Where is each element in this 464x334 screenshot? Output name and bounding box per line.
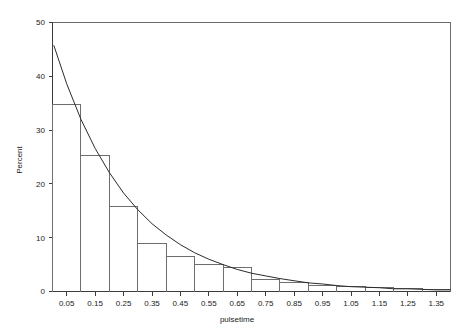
y-axis-title: Percent [15, 145, 24, 173]
x-tick-label: 1.15 [372, 299, 388, 308]
x-tick-label: 0.65 [230, 299, 246, 308]
x-tick-label: 1.35 [429, 299, 445, 308]
x-tick-label: 0.35 [144, 299, 160, 308]
y-tick-label: 0 [41, 287, 46, 296]
x-tick-label: 1.05 [343, 299, 359, 308]
x-tick-label: 0.15 [87, 299, 103, 308]
y-tick-label: 50 [36, 18, 45, 27]
y-tick-label: 40 [36, 72, 45, 81]
histogram-chart: 0 10 20 30 40 50 Percent [0, 0, 464, 334]
y-tick-label: 30 [36, 126, 45, 135]
x-tick-label: 0.05 [59, 299, 75, 308]
x-tick-label: 0.45 [173, 299, 189, 308]
x-tick-label: 0.25 [116, 299, 132, 308]
chart-figure: 0 10 20 30 40 50 Percent [0, 0, 464, 334]
x-tick-label: 0.95 [315, 299, 331, 308]
chart-background [0, 0, 464, 334]
x-axis-title: pulsetime [220, 315, 255, 324]
x-tick-label: 0.75 [258, 299, 274, 308]
x-tick-label: 0.85 [286, 299, 302, 308]
y-tick-label: 10 [36, 234, 45, 243]
x-tick-label: 0.55 [201, 299, 217, 308]
x-tick-label: 1.25 [400, 299, 416, 308]
y-tick-label: 20 [36, 180, 45, 189]
